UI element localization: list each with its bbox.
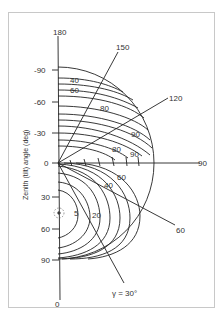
contour-label: 80 [100,104,109,113]
radial-label-90: 90 [198,159,207,168]
radial-label-120: 120 [169,94,183,103]
polar-diagram: 180 0 -90 -60 -30 0 30 60 90 Zenith (til… [0,0,222,314]
vertical-axis-bottom-label: 0 [55,300,60,309]
contour-label: 40 [104,181,113,190]
radial-label-60: 60 [176,226,185,235]
tick-label: 0 [44,159,49,168]
tick-label: -60 [34,98,46,107]
radial-label-150: 150 [116,43,130,52]
contour-label: 90 [130,150,139,159]
contour-label: 40 [70,76,79,85]
tick-label: -90 [34,66,46,75]
contour-label: 80 [112,145,121,154]
axis-title: Zenith (tilt) angle (deg) [22,130,30,200]
contour-label: 60 [117,173,126,182]
contour-label: 5 [74,209,79,218]
tick-label: 90 [41,256,50,265]
tick-label: 60 [41,225,50,234]
vertical-axis-top-label: 180 [53,28,67,37]
contour-label: 20 [92,211,101,220]
gamma-label: γ = 30° [112,289,137,298]
tick-label: -30 [34,129,46,138]
contour-label: 90 [131,130,140,139]
tick-label: 30 [41,193,50,202]
contour-label: 60 [70,86,79,95]
